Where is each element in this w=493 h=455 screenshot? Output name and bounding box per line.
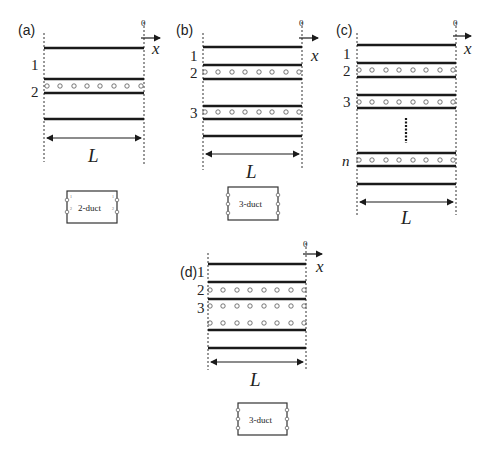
duct-label: 3 [190, 105, 198, 121]
axis-label: x [151, 39, 160, 58]
length-label: L [249, 369, 261, 390]
panel-a-label: (a) [18, 22, 35, 38]
port-icon [115, 210, 119, 214]
perforation-row [208, 304, 306, 308]
svg-text:1: 1 [70, 194, 72, 199]
duct-diagram: (a) 0 x 1 2 L 2-duct 1 2 1 2 [0, 0, 493, 455]
panel-a: (a) 0 x 1 2 L 2-duct 1 2 1 2 [18, 18, 160, 223]
duct-label: 2 [197, 282, 205, 298]
block-label: 3-duct [249, 415, 272, 425]
axis-label: x [315, 257, 324, 276]
block-label: 2-duct [78, 203, 101, 213]
port-icon [65, 210, 69, 214]
axis-origin: 0 [141, 18, 146, 28]
duct-label: 1 [31, 57, 39, 73]
perforation-row [357, 158, 455, 162]
panel-b: (b) 0 x 1 2 3 L 3-duct [176, 18, 319, 220]
panel-c-label: (c) [336, 22, 352, 38]
perforation-row [45, 84, 143, 88]
perforation-row [203, 70, 301, 74]
duct-label: 1 [197, 264, 205, 280]
axis-label: x [310, 46, 319, 65]
duct-label: 2 [190, 65, 198, 81]
length-label: L [400, 207, 412, 228]
axis-origin: 0 [303, 239, 308, 249]
panel-d-label: (d) [180, 264, 197, 280]
perforation-row [203, 110, 301, 114]
duct-label: n [342, 153, 350, 169]
panel-c: (c) 0 x 1 [336, 18, 472, 228]
block-3-duct: 3-duct [236, 403, 289, 435]
svg-text:2: 2 [70, 206, 72, 211]
panel-d: (d) 0 x 1 2 3 L [180, 239, 324, 435]
length-label: L [245, 161, 257, 182]
perforation-row [357, 100, 455, 104]
port-icon [115, 198, 119, 202]
axis-origin: 0 [453, 18, 458, 28]
port-icon [65, 198, 69, 202]
duct-label: 2 [31, 84, 39, 100]
duct-label: 3 [197, 300, 205, 316]
perforation-row [208, 321, 306, 325]
perforation-row [357, 68, 455, 72]
duct-label: 2 [343, 63, 351, 79]
duct-label: 1 [190, 48, 198, 64]
axis-label: x [463, 39, 472, 58]
length-label: L [87, 145, 99, 166]
duct-label: 1 [343, 46, 351, 62]
duct-label: 3 [343, 94, 351, 110]
block-2-duct: 2-duct 1 2 1 2 [65, 191, 119, 223]
panel-b-label: (b) [176, 22, 193, 38]
svg-text:1: 1 [112, 194, 114, 199]
block-label: 3-duct [239, 199, 262, 209]
svg-text:2: 2 [112, 206, 114, 211]
block-3-duct: 3-duct [226, 187, 280, 220]
axis-origin: 0 [299, 18, 304, 28]
perforation-row [208, 288, 306, 292]
